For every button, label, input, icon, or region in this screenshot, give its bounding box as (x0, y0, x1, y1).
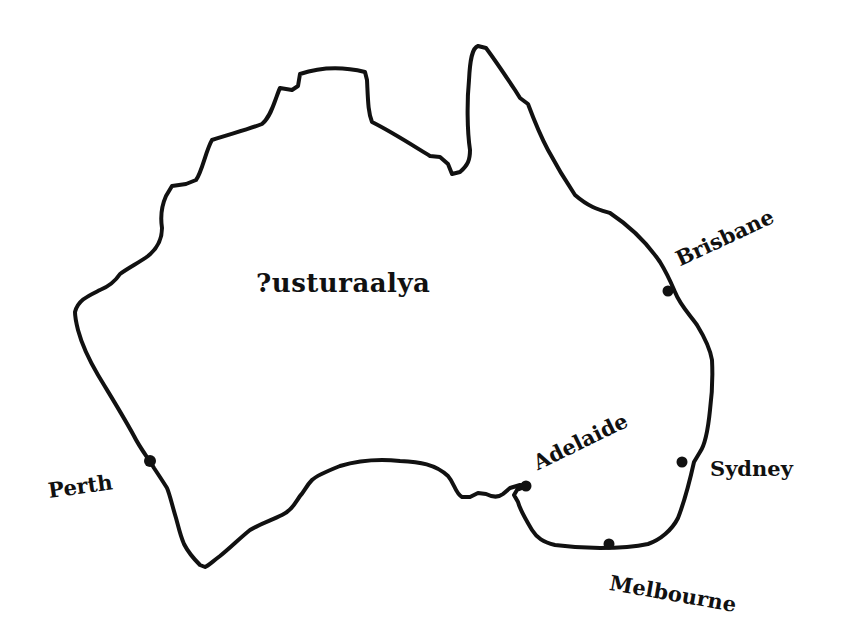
australia-map (0, 0, 862, 644)
australia-coastline (75, 46, 712, 567)
country-label: ?usturaalya (256, 268, 430, 298)
city-dot-adelaide (521, 481, 532, 492)
city-dot-brisbane (663, 286, 674, 297)
city-dot-perth (144, 455, 156, 467)
city-dot-melbourne (604, 539, 615, 550)
city-dot-sydney (677, 457, 688, 468)
city-label-sydney: Sydney (710, 456, 793, 481)
